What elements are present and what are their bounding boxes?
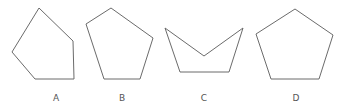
shape-c-polygon: [165, 28, 243, 72]
shape-d-polygon: [256, 9, 333, 79]
shape-b-label: B: [112, 92, 132, 104]
shape-d-label: D: [286, 92, 306, 104]
shape-a-label: A: [46, 92, 66, 104]
shape-a-polygon: [12, 8, 74, 79]
shape-b-polygon: [86, 8, 153, 79]
shapes-figure: [0, 0, 345, 107]
shape-c-label: C: [194, 92, 214, 104]
